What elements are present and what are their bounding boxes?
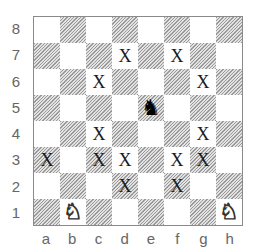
square-d7: X [112, 43, 138, 69]
square-g4: X [190, 121, 216, 147]
white-knight-icon: ♘ [63, 201, 83, 223]
square-g1 [190, 199, 216, 225]
file-label-d: d [112, 230, 138, 247]
square-a5 [34, 95, 60, 121]
x-mark: X [93, 125, 106, 143]
x-mark: X [119, 151, 132, 169]
square-c1 [86, 199, 112, 225]
square-f2: X [164, 173, 190, 199]
square-h8 [216, 17, 242, 43]
square-c2 [86, 173, 112, 199]
rank-label-8: 8 [8, 20, 24, 37]
file-label-b: b [59, 230, 85, 247]
square-f1 [164, 199, 190, 225]
x-mark: X [41, 151, 54, 169]
square-c8 [86, 17, 112, 43]
square-d4 [112, 121, 138, 147]
x-mark: X [197, 73, 210, 91]
square-e8 [138, 17, 164, 43]
square-a2 [34, 173, 60, 199]
square-h3 [216, 147, 242, 173]
square-d5 [112, 95, 138, 121]
square-f7: X [164, 43, 190, 69]
square-b4 [60, 121, 86, 147]
square-f4 [164, 121, 190, 147]
square-g8 [190, 17, 216, 43]
square-g7 [190, 43, 216, 69]
square-h5 [216, 95, 242, 121]
x-mark: X [171, 47, 184, 65]
square-f3: X [164, 147, 190, 173]
square-b8 [60, 17, 86, 43]
rank-label-7: 7 [8, 46, 24, 63]
square-d3: X [112, 147, 138, 173]
square-h4 [216, 121, 242, 147]
black-knight-icon: ♞ [141, 97, 161, 119]
square-g3: X [190, 147, 216, 173]
file-label-h: h [217, 230, 243, 247]
square-c3: X [86, 147, 112, 173]
file-label-e: e [138, 230, 164, 247]
x-mark: X [197, 125, 210, 143]
square-f5 [164, 95, 190, 121]
x-mark: X [93, 73, 106, 91]
x-mark: X [119, 47, 132, 65]
file-label-g: g [191, 230, 217, 247]
square-e5: ♞ [138, 95, 164, 121]
file-label-a: a [33, 230, 59, 247]
square-e6 [138, 69, 164, 95]
file-label-c: c [86, 230, 112, 247]
square-e2 [138, 173, 164, 199]
square-d8 [112, 17, 138, 43]
square-b7 [60, 43, 86, 69]
square-g2 [190, 173, 216, 199]
square-a1 [34, 199, 60, 225]
square-g6: X [190, 69, 216, 95]
file-label-f: f [164, 230, 190, 247]
square-b3 [60, 147, 86, 173]
square-a4 [34, 121, 60, 147]
square-h2 [216, 173, 242, 199]
square-c7 [86, 43, 112, 69]
square-a3: X [34, 147, 60, 173]
square-a8 [34, 17, 60, 43]
square-c5 [86, 95, 112, 121]
square-b5 [60, 95, 86, 121]
rank-label-1: 1 [8, 204, 24, 221]
square-f8 [164, 17, 190, 43]
square-h1: ♘ [216, 199, 242, 225]
square-e4 [138, 121, 164, 147]
rank-label-3: 3 [8, 151, 24, 168]
square-d6 [112, 69, 138, 95]
white-knight-icon: ♘ [219, 201, 239, 223]
square-d2: X [112, 173, 138, 199]
square-b6 [60, 69, 86, 95]
square-h7 [216, 43, 242, 69]
x-mark: X [93, 151, 106, 169]
x-mark: X [171, 151, 184, 169]
square-a6 [34, 69, 60, 95]
x-mark: X [171, 177, 184, 195]
square-b1: ♘ [60, 199, 86, 225]
square-e3 [138, 147, 164, 173]
rank-label-5: 5 [8, 99, 24, 116]
rank-label-2: 2 [8, 178, 24, 195]
rank-label-4: 4 [8, 125, 24, 142]
square-g5 [190, 95, 216, 121]
square-c4: X [86, 121, 112, 147]
rank-label-6: 6 [8, 73, 24, 90]
x-mark: X [119, 177, 132, 195]
square-h6 [216, 69, 242, 95]
square-a7 [34, 43, 60, 69]
chess-board: XXXX♞XXXXXXXXX♘♘ [33, 16, 243, 226]
square-c6: X [86, 69, 112, 95]
square-b2 [60, 173, 86, 199]
square-e1 [138, 199, 164, 225]
square-e7 [138, 43, 164, 69]
square-f6 [164, 69, 190, 95]
x-mark: X [197, 151, 210, 169]
square-d1 [112, 199, 138, 225]
